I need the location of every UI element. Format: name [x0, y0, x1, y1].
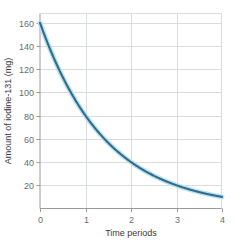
- y-tick-label-60: 60: [24, 135, 34, 145]
- y-tick-label-80: 80: [24, 112, 34, 122]
- decay-chart: 20406080100120140160 01234 Time periods …: [0, 0, 234, 241]
- y-tick-label-40: 40: [24, 158, 34, 168]
- x-tick-label-0: 0: [38, 215, 43, 225]
- chart-background: [0, 0, 234, 241]
- y-tick-label-140: 140: [19, 42, 34, 52]
- y-tick-label-20: 20: [24, 181, 34, 191]
- y-tick-label-100: 100: [19, 88, 34, 98]
- chart-figure: 20406080100120140160 01234 Time periods …: [0, 0, 234, 241]
- y-tick-label-120: 120: [19, 65, 34, 75]
- x-axis-title: Time periods: [105, 228, 157, 238]
- x-tick-label-1: 1: [84, 215, 89, 225]
- x-tick-label-4: 4: [220, 215, 225, 225]
- y-axis-title: Amount of iodine-131 (mg): [3, 58, 13, 165]
- x-tick-label-3: 3: [175, 215, 180, 225]
- y-tick-label-160: 160: [19, 19, 34, 29]
- x-tick-label-2: 2: [129, 215, 134, 225]
